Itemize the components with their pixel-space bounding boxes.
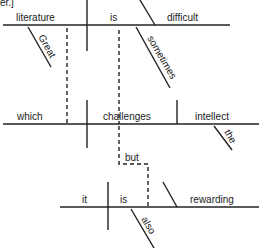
word-also: also: [139, 215, 158, 237]
predicate-adj-divider-3: [163, 182, 177, 207]
word-is-2: is: [120, 194, 127, 205]
word-the: the: [222, 128, 239, 146]
word-intellect: intellect: [195, 111, 229, 122]
corner-fragment: er.]: [0, 0, 14, 8]
word-literature: literature: [16, 12, 55, 23]
word-rewarding: rewarding: [190, 194, 234, 205]
word-is-1: is: [110, 12, 117, 23]
word-which: which: [16, 111, 43, 122]
sentence-diagram: er.] literature is difficult Great somet…: [0, 0, 259, 248]
word-difficult: difficult: [167, 12, 198, 23]
word-challenges: challenges: [103, 111, 151, 122]
predicate-adj-divider-1: [140, 0, 155, 25]
word-it: it: [82, 194, 87, 205]
word-but: but: [125, 152, 139, 163]
